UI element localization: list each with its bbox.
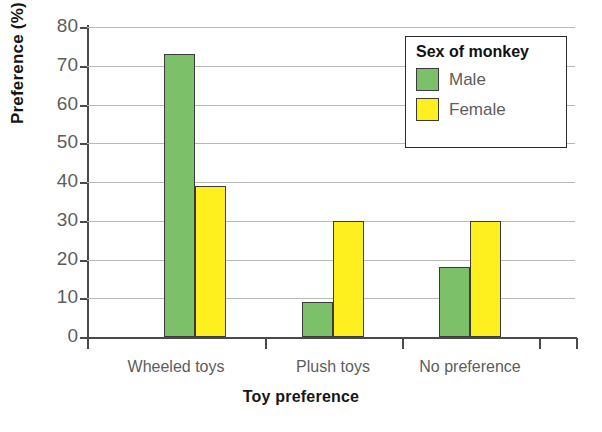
bar-female-plush-toys [333,221,364,337]
bar-chart: Preference (%) 01020304050607080 Wheeled… [0,0,602,432]
y-tick-label: 30 [38,209,78,231]
legend-label-male: Male [449,70,486,90]
bar-male-no-preference [439,267,470,337]
bar-female-wheeled-toys [195,186,226,337]
y-tick-label: 50 [38,131,78,153]
legend-title: Sex of monkey [416,43,556,61]
x-tick-mark [87,338,89,349]
legend-entry-male: Male [416,68,556,91]
legend-entry-female: Female [416,98,556,121]
bar-male-wheeled-toys [164,54,195,337]
x-category-label-plush-toys: Plush toys [253,358,413,376]
x-category-label-no-preference: No preference [390,358,550,376]
legend-swatch-male [416,68,439,91]
gridline [87,182,575,183]
y-tick-label: 40 [38,170,78,192]
x-tick-mark [402,338,404,349]
gridline [87,337,575,338]
gridline [87,221,575,222]
bar-female-no-preference [470,221,501,337]
x-tick-mark [576,338,578,349]
x-tick-mark [539,338,541,349]
y-tick-label: 80 [38,15,78,37]
legend-swatch-female [416,98,439,121]
legend-label-female: Female [449,100,506,120]
y-tick-label: 10 [38,286,78,308]
bar-male-plush-toys [302,302,333,337]
y-tick-label: 60 [38,93,78,115]
x-category-label-wheeled-toys: Wheeled toys [96,358,256,376]
x-tick-mark [265,338,267,349]
y-tick-label: 70 [38,54,78,76]
gridline [87,27,575,28]
y-tick-label: 0 [38,325,78,347]
y-tick-label: 20 [38,248,78,270]
gridline [87,298,575,299]
gridline [87,260,575,261]
legend-entries: MaleFemale [416,68,556,121]
y-axis-ticks: 01020304050607080 [0,27,78,337]
legend: Sex of monkey MaleFemale [405,36,567,148]
x-axis-title: Toy preference [0,388,602,406]
